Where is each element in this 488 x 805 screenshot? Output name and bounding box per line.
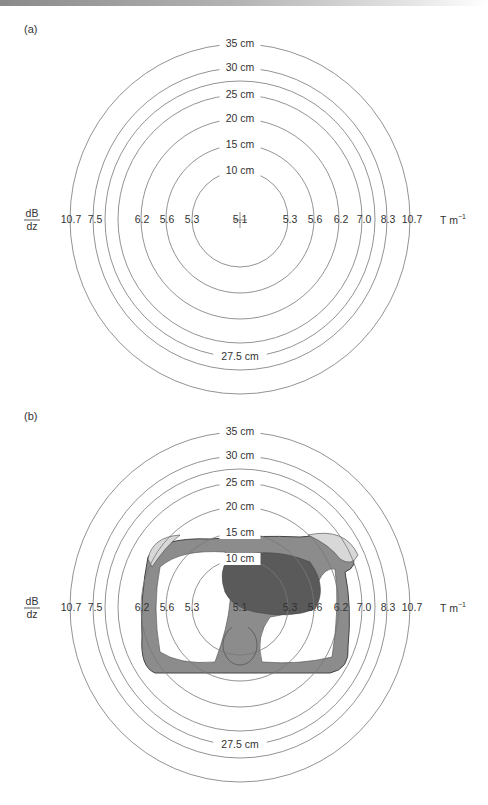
gradient-value-label: 10.7 [402, 213, 423, 225]
gradient-value-label: 7.0 [357, 213, 372, 225]
dB-numerator: dB [26, 207, 39, 219]
panel-label: (b) [24, 410, 37, 422]
ring-radius-label: 20 cm [226, 500, 255, 512]
gradient-value-label: 5.3 [185, 213, 200, 225]
ring-radius-label: 25 cm [226, 476, 255, 488]
ring-radius-label: 10 cm [226, 164, 255, 176]
gradient-unit: T m−1 [440, 601, 466, 614]
gradient-value-label: 8.3 [381, 213, 396, 225]
dz-denominator: dz [26, 608, 37, 620]
ring-radius-label: 30 cm [226, 61, 255, 73]
gradient-value-label: 5.1 [233, 213, 248, 225]
gradient-value-label: 5.6 [308, 213, 323, 225]
panel-a: (a)10 cm15 cm20 cm25 cm27.5 cm30 cm35 cm… [24, 23, 466, 394]
gradient-value-label: 5.6 [160, 601, 175, 613]
gradient-value-label: 10.7 [61, 601, 82, 613]
gradient-field-figure: (a)10 cm15 cm20 cm25 cm27.5 cm30 cm35 cm… [0, 0, 488, 805]
ring-radius-label: 10 cm [226, 552, 255, 564]
gradient-unit: T m−1 [440, 213, 466, 226]
ring-radius-label: 35 cm [226, 37, 255, 49]
ring-radius-label: 15 cm [226, 138, 255, 150]
gradient-value-label: 5.6 [160, 213, 175, 225]
gradient-value-label: 5.1 [233, 601, 248, 613]
gradient-value-label: 5.3 [283, 213, 298, 225]
dz-denominator: dz [26, 220, 37, 232]
gradient-value-label: 7.5 [88, 601, 103, 613]
gradient-value-label: 5.6 [308, 601, 323, 613]
ring-radius-label: 15 cm [226, 526, 255, 538]
ring-radius-label: 25 cm [226, 88, 255, 100]
gradient-value-label: 5.3 [283, 601, 298, 613]
panel-b: (b)10 cm15 cm20 cm25 cm27.5 cm30 cm35 cm… [24, 410, 466, 782]
panel-label: (a) [24, 23, 37, 35]
ring-radius-label: 35 cm [226, 425, 255, 437]
gradient-value-label: 10.7 [402, 601, 423, 613]
gradient-value-label: 7.5 [88, 213, 103, 225]
gradient-value-label: 8.3 [381, 601, 396, 613]
gradient-value-label: 6.2 [135, 213, 150, 225]
ring-radius-label: 20 cm [226, 112, 255, 124]
ring-radius-label: 27.5 cm [221, 738, 259, 750]
ring-radius-label: 27.5 cm [221, 350, 259, 362]
gradient-value-label: 5.3 [185, 601, 200, 613]
gradient-value-label: 6.2 [135, 601, 150, 613]
ring-radius-label: 30 cm [226, 449, 255, 461]
dB-numerator: dB [26, 595, 39, 607]
gradient-value-label: 6.2 [334, 601, 349, 613]
gradient-value-label: 10.7 [61, 213, 82, 225]
gradient-value-label: 6.2 [334, 213, 349, 225]
gradient-value-label: 7.0 [357, 601, 372, 613]
